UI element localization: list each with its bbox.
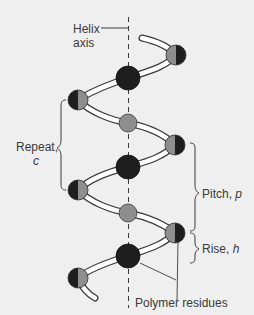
helix-axis-label: Helix axis	[73, 22, 100, 50]
residue-3	[68, 90, 88, 110]
repeat-symbol: c	[16, 154, 56, 168]
rise-label: Rise, h	[202, 242, 239, 256]
helix-axis-label-line2: axis	[73, 36, 100, 50]
helix-diagram: Helix axis Repeat, c Pitch, p Rise, h Po…	[0, 0, 254, 315]
residue-10	[116, 244, 140, 268]
polymer-residues-text: Polymer residues	[135, 296, 228, 310]
residue-8	[119, 204, 137, 222]
repeat-brace	[57, 100, 66, 190]
pitch-symbol: p	[235, 187, 242, 201]
rise-symbol: h	[233, 242, 240, 256]
residue-1	[166, 45, 186, 65]
pitch-label: Pitch, p	[202, 187, 242, 201]
residue-9	[165, 223, 185, 243]
repeat-label-text: Repeat,	[16, 140, 56, 154]
residue-4	[119, 114, 137, 132]
pitch-label-text: Pitch,	[202, 187, 235, 201]
residue-11	[68, 268, 88, 288]
residue-5	[165, 135, 185, 155]
residue-7	[68, 180, 88, 200]
pitch-brace	[190, 143, 199, 231]
rise-brace	[190, 233, 199, 263]
residue-6	[116, 155, 140, 179]
rise-label-text: Rise,	[202, 242, 233, 256]
helix-axis-label-line1: Helix	[73, 22, 100, 36]
repeat-label: Repeat, c	[16, 140, 56, 168]
residue-2	[116, 66, 140, 90]
polymer-residues-label: Polymer residues	[135, 296, 228, 310]
